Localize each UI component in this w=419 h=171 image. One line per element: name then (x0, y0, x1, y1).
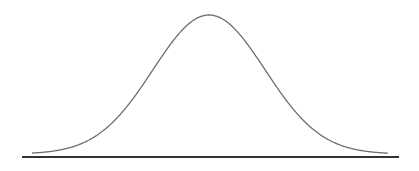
diagram-svg (0, 0, 419, 171)
bell-curve (32, 15, 388, 153)
bell-curve-diagram (0, 0, 419, 171)
